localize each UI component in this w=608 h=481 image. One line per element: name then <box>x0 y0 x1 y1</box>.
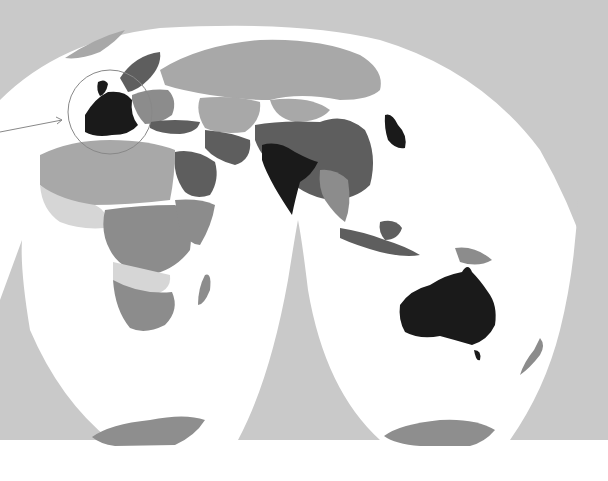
world-map <box>0 0 608 481</box>
bottom-strip <box>0 440 608 481</box>
north-africa <box>40 140 175 205</box>
